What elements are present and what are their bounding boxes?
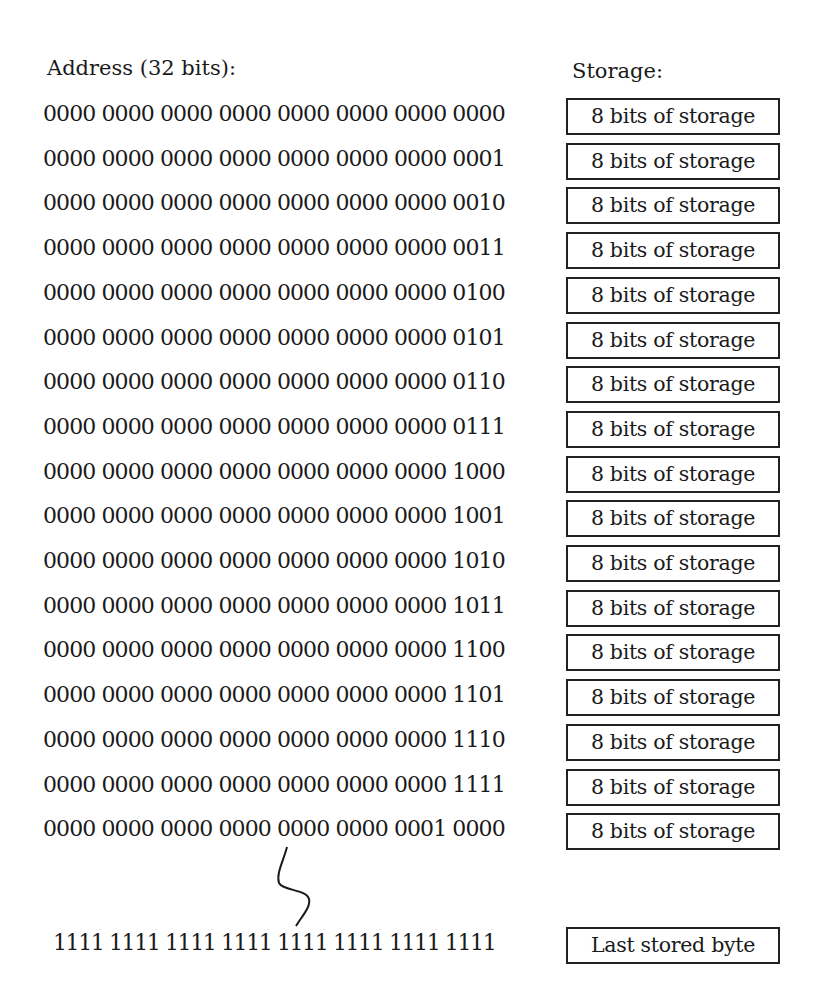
- address-value: 0000 0000 0000 0000 0000 0000 0000 0010: [43, 190, 505, 215]
- memory-row: 0000 0000 0000 0000 0000 0000 0000 00118…: [0, 232, 824, 269]
- address-value: 0000 0000 0000 0000 0000 0000 0000 1100: [43, 637, 505, 662]
- storage-box: 8 bits of storage: [566, 187, 780, 224]
- address-value: 0000 0000 0000 0000 0000 0000 0000 1000: [43, 459, 505, 484]
- storage-box: 8 bits of storage: [566, 500, 780, 537]
- memory-row: 0000 0000 0000 0000 0000 0000 0000 01118…: [0, 411, 824, 448]
- address-value: 0000 0000 0000 0000 0000 0000 0001 0000: [43, 816, 505, 841]
- memory-row: 0000 0000 0000 0000 0000 0000 0000 10108…: [0, 545, 824, 582]
- memory-row: 0000 0000 0000 0000 0000 0000 0000 10018…: [0, 500, 824, 537]
- memory-row: 0000 0000 0000 0000 0000 0000 0000 11018…: [0, 679, 824, 716]
- storage-box: 8 bits of storage: [566, 232, 780, 269]
- address-value: 0000 0000 0000 0000 0000 0000 0000 0011: [43, 235, 505, 260]
- memory-row: 0000 0000 0000 0000 0000 0000 0001 00008…: [0, 813, 824, 850]
- address-header: Address (32 bits):: [47, 56, 236, 80]
- address-value: 0000 0000 0000 0000 0000 0000 0000 1011: [43, 593, 505, 618]
- storage-box: 8 bits of storage: [566, 545, 780, 582]
- storage-box: 8 bits of storage: [566, 98, 780, 135]
- memory-row: 0000 0000 0000 0000 0000 0000 0000 10118…: [0, 590, 824, 627]
- address-value: 0000 0000 0000 0000 0000 0000 0000 1101: [43, 682, 505, 707]
- storage-box: 8 bits of storage: [566, 724, 780, 761]
- storage-box: 8 bits of storage: [566, 277, 780, 314]
- address-value: 0000 0000 0000 0000 0000 0000 0000 1001: [43, 503, 505, 528]
- last-row: 1111 1111 1111 1111 1111 1111 1111 1111 …: [0, 927, 824, 964]
- address-value: 0000 0000 0000 0000 0000 0000 0000 0111: [43, 414, 505, 439]
- storage-header: Storage:: [572, 59, 663, 83]
- memory-row: 0000 0000 0000 0000 0000 0000 0000 11008…: [0, 634, 824, 671]
- memory-row: 0000 0000 0000 0000 0000 0000 0000 01108…: [0, 366, 824, 403]
- address-value: 0000 0000 0000 0000 0000 0000 0000 1111: [43, 772, 505, 797]
- address-value: 0000 0000 0000 0000 0000 0000 0000 1110: [43, 727, 505, 752]
- storage-box: 8 bits of storage: [566, 679, 780, 716]
- address-value: 0000 0000 0000 0000 0000 0000 0000 0001: [43, 146, 505, 171]
- memory-row: 0000 0000 0000 0000 0000 0000 0000 01018…: [0, 322, 824, 359]
- storage-box: 8 bits of storage: [566, 813, 780, 850]
- memory-row: 0000 0000 0000 0000 0000 0000 0000 00018…: [0, 143, 824, 180]
- storage-box: 8 bits of storage: [566, 590, 780, 627]
- storage-box: 8 bits of storage: [566, 411, 780, 448]
- storage-box: 8 bits of storage: [566, 769, 780, 806]
- address-value: 0000 0000 0000 0000 0000 0000 0000 0100: [43, 280, 505, 305]
- storage-box: 8 bits of storage: [566, 634, 780, 671]
- address-value: 0000 0000 0000 0000 0000 0000 0000 0110: [43, 369, 505, 394]
- last-storage-box: Last stored byte: [566, 927, 780, 964]
- storage-box: 8 bits of storage: [566, 366, 780, 403]
- address-value: 0000 0000 0000 0000 0000 0000 0000 1010: [43, 548, 505, 573]
- memory-row: 0000 0000 0000 0000 0000 0000 0000 11118…: [0, 769, 824, 806]
- memory-row: 0000 0000 0000 0000 0000 0000 0000 10008…: [0, 456, 824, 493]
- storage-box: 8 bits of storage: [566, 456, 780, 493]
- memory-row: 0000 0000 0000 0000 0000 0000 0000 00108…: [0, 187, 824, 224]
- memory-row: 0000 0000 0000 0000 0000 0000 0000 01008…: [0, 277, 824, 314]
- memory-row: 0000 0000 0000 0000 0000 0000 0000 00008…: [0, 98, 824, 135]
- memory-row: 0000 0000 0000 0000 0000 0000 0000 11108…: [0, 724, 824, 761]
- address-value: 0000 0000 0000 0000 0000 0000 0000 0000: [43, 101, 505, 126]
- storage-box: 8 bits of storage: [566, 322, 780, 359]
- storage-box: 8 bits of storage: [566, 143, 780, 180]
- address-value: 0000 0000 0000 0000 0000 0000 0000 0101: [43, 325, 505, 350]
- last-address: 1111 1111 1111 1111 1111 1111 1111 1111: [53, 930, 495, 955]
